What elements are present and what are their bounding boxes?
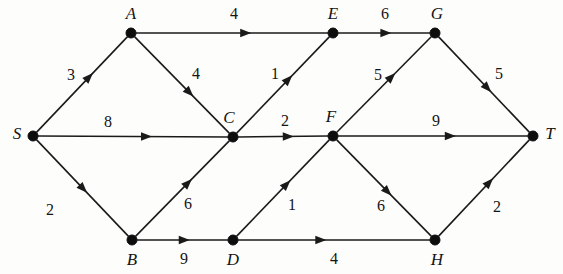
arrowhead-c-to-f-icon (283, 132, 294, 140)
edge-a-to-c (135, 37, 230, 134)
node-b[interactable] (127, 235, 137, 245)
edge-weight-g-t: 5 (495, 65, 503, 83)
arrowhead-b-to-d-icon (179, 236, 190, 244)
edge-weight-s-b: 2 (46, 201, 54, 219)
node-label-s: S (13, 124, 22, 144)
edge-s-to-c (38, 136, 228, 137)
node-h[interactable] (430, 235, 440, 245)
arrowhead-e-to-g-icon (380, 29, 391, 37)
edge-weight-b-c: 6 (184, 195, 192, 213)
edge-weight-f-g: 5 (374, 66, 382, 84)
node-label-g: G (431, 4, 443, 24)
node-e[interactable] (328, 28, 338, 38)
edge-weight-d-f: 1 (288, 196, 296, 214)
edge-b-to-c (136, 141, 230, 237)
arrowhead-d-to-h-icon (315, 236, 326, 244)
node-s[interactable] (28, 131, 38, 141)
graph-svg-layer (0, 0, 563, 274)
arrowhead-f-to-t-icon (445, 132, 456, 140)
node-label-c: C (223, 108, 234, 128)
edge-weight-f-t: 9 (432, 112, 440, 130)
edge-s-to-a (36, 37, 127, 133)
arrowhead-s-to-c-icon (141, 132, 152, 140)
edge-weight-c-e: 1 (271, 65, 279, 83)
node-label-f: F (326, 107, 336, 127)
edge-weight-s-a: 3 (67, 66, 75, 84)
node-label-b: B (127, 250, 137, 270)
edge-weight-a-c: 4 (192, 65, 200, 83)
graph-diagram-canvas: 38244691214659652SABCDEFGHT (0, 0, 563, 274)
node-f[interactable] (328, 131, 338, 141)
node-a[interactable] (126, 28, 136, 38)
node-d[interactable] (228, 235, 238, 245)
node-c[interactable] (228, 132, 238, 142)
node-label-h: H (431, 250, 443, 270)
edge-weight-a-e: 4 (230, 5, 238, 23)
edge-weight-d-h: 4 (330, 250, 338, 268)
edge-weight-b-d: 9 (180, 250, 188, 268)
edge-h-to-t (438, 140, 529, 237)
edge-weight-e-g: 6 (381, 5, 389, 23)
node-label-e: E (328, 4, 338, 24)
node-label-t: T (545, 124, 554, 144)
arrowhead-a-to-e-icon (240, 29, 251, 37)
edge-weight-h-t: 2 (493, 198, 501, 216)
node-label-a: A (126, 4, 136, 24)
edges-group (36, 29, 529, 244)
edge-weight-f-h: 6 (377, 197, 385, 215)
node-g[interactable] (430, 28, 440, 38)
edge-weight-c-f: 2 (281, 112, 289, 130)
node-t[interactable] (528, 131, 538, 141)
edge-f-to-g (337, 37, 432, 133)
node-label-d: D (227, 250, 239, 270)
edge-weight-s-c: 8 (104, 113, 112, 131)
